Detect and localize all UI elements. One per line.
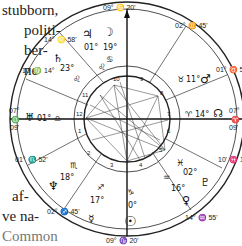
- north-node-glyph: ☊: [213, 107, 223, 120]
- moon-sign: ♋: [106, 55, 113, 64]
- moon-degree: 19°: [103, 43, 117, 52]
- c2-label: 01° ♏ 52': [15, 155, 48, 164]
- dsc-deg: 07°: [229, 107, 240, 114]
- house-10: 10: [113, 76, 120, 82]
- c5-label: 14° ♒ 55': [185, 213, 218, 222]
- mars-glyph: ♂: [200, 72, 211, 86]
- moon-glyph: ☽: [103, 25, 114, 39]
- dsc-sign: ♈: [231, 115, 240, 124]
- uranus-degree: 01° ♎: [37, 114, 61, 123]
- neptune-glyph: ♆: [48, 179, 59, 193]
- jupiter-degree: 01°: [84, 43, 98, 52]
- venus-glyph: ♀: [182, 194, 190, 207]
- leo-sign-2: ♌: [73, 74, 81, 84]
- scorpio-sign: ♏: [70, 161, 78, 170]
- house-3: 3: [110, 162, 114, 168]
- uranus-glyph: ♅: [25, 111, 35, 124]
- natal-chart: 10 9 8 7 6 5 4 3 2 1 12 11 09° ♋ 20' 09°…: [0, 0, 242, 246]
- leo-sign: ♌: [98, 62, 106, 72]
- c9-label: 02° ♊ 45': [175, 21, 208, 30]
- north-node-sign: ♈: [185, 110, 192, 119]
- c12-label: 10' ♍ 14°: [22, 66, 55, 75]
- jupiter-glyph: ♃: [82, 27, 93, 41]
- c6-label: 10' ♓ 14°: [218, 155, 242, 164]
- sun-degree: 0°: [128, 201, 137, 210]
- dsc-min: 09': [229, 124, 238, 131]
- sun-glyph: ☉: [124, 213, 137, 229]
- mc-label: 09° ♋ 20': [103, 3, 136, 12]
- mc-arrow-icon: [124, 10, 130, 18]
- ic-label: 09° ♑ 20': [106, 236, 139, 245]
- house-4: 4: [139, 162, 143, 168]
- mars-degree: 11°: [186, 75, 200, 84]
- asc-sign: ♎: [11, 115, 20, 124]
- mercury-degree: 17°: [90, 196, 104, 205]
- c3-label: 02° ♐ 45': [47, 207, 80, 216]
- pluto-degree: 02°: [183, 168, 197, 177]
- capricorn-sign: ♑: [127, 188, 134, 197]
- pluto-glyph: ♇: [200, 176, 210, 189]
- house-12: 12: [76, 111, 83, 117]
- house-2: 2: [87, 150, 91, 156]
- mercury-glyph: ☿: [88, 213, 94, 224]
- sagittarius-sign: ♐: [97, 183, 104, 192]
- house-6: 6: [167, 128, 171, 134]
- saturn-degree: 23°: [60, 64, 74, 73]
- venus-degree: 16°: [171, 184, 185, 193]
- aquarius-sign: ♒: [163, 173, 170, 182]
- c8-label: 01° ♉ 52': [216, 65, 242, 74]
- house-1: 1: [78, 128, 82, 134]
- asc-deg: 07°: [9, 107, 20, 114]
- neptune-degree: 18°: [60, 173, 74, 182]
- c11-label: 14° ♌ 58': [44, 35, 77, 44]
- asc-min: 09': [10, 124, 19, 131]
- north-node-degree: 14°: [195, 110, 209, 119]
- mars-sign: ♉: [177, 75, 184, 84]
- pisces-sign: ♓: [176, 158, 184, 168]
- house-11: 11: [82, 92, 89, 98]
